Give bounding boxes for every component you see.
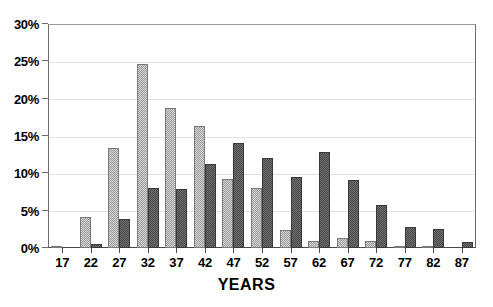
bar <box>280 230 291 248</box>
x-axis-tick-mark <box>148 248 149 253</box>
bar <box>80 217 91 248</box>
bar-group <box>276 24 305 248</box>
bar <box>51 246 62 248</box>
bar <box>319 152 330 248</box>
y-axis-tick-label: 25% <box>0 54 39 69</box>
x-axis-tick-label: 67 <box>341 255 355 270</box>
x-axis-tick-label: 32 <box>141 255 155 270</box>
x-axis-tick-label: 72 <box>369 255 383 270</box>
bar <box>205 164 216 248</box>
bar <box>394 246 405 248</box>
bar <box>165 108 176 248</box>
x-axis-tick-mark <box>176 248 177 253</box>
bar-group <box>390 24 419 248</box>
bar-group <box>48 24 77 248</box>
bar-group <box>162 24 191 248</box>
bar <box>348 180 359 248</box>
x-axis-tick-mark <box>119 248 120 253</box>
bar-group <box>191 24 220 248</box>
bar <box>291 177 302 248</box>
x-axis-tick-mark <box>348 248 349 253</box>
x-axis-tick-label: 87 <box>455 255 469 270</box>
bar-group <box>362 24 391 248</box>
bar-group <box>248 24 277 248</box>
x-axis-tick-label: 37 <box>169 255 183 270</box>
bar <box>376 205 387 248</box>
bar <box>194 126 205 248</box>
x-axis-tick-label: 17 <box>55 255 69 270</box>
bar <box>176 189 187 248</box>
y-axis-tick-label: 30% <box>0 17 39 32</box>
y-axis-tick-label: 0% <box>0 241 39 256</box>
bar <box>233 143 244 248</box>
x-axis-tick-label: 82 <box>426 255 440 270</box>
bar <box>365 241 376 248</box>
bar <box>262 158 273 248</box>
bar <box>251 188 262 248</box>
bar <box>108 148 119 248</box>
x-axis-tick-mark <box>433 248 434 253</box>
bar <box>148 188 159 248</box>
x-axis-tick-label: 42 <box>198 255 212 270</box>
bar-group <box>305 24 334 248</box>
x-axis-tick-label: 77 <box>398 255 412 270</box>
bar <box>91 244 102 248</box>
x-axis-tick-label: 62 <box>312 255 326 270</box>
x-axis-tick-mark <box>462 248 463 253</box>
bar <box>137 64 148 248</box>
x-axis-title: YEARS <box>0 276 493 294</box>
bar <box>222 179 233 248</box>
bar-group <box>447 24 476 248</box>
x-axis-tick-label: 22 <box>84 255 98 270</box>
y-axis-tick-label: 10% <box>0 166 39 181</box>
bar-group <box>333 24 362 248</box>
bar <box>119 219 130 248</box>
x-axis-tick-label: 52 <box>255 255 269 270</box>
bar-group <box>134 24 163 248</box>
y-axis-tick-label: 15% <box>0 129 39 144</box>
bar <box>433 229 444 248</box>
bar-group <box>419 24 448 248</box>
bar-group <box>105 24 134 248</box>
x-axis-tick-mark <box>262 248 263 253</box>
x-axis-tick-mark <box>62 248 63 253</box>
y-axis-tick-label: 5% <box>0 203 39 218</box>
x-axis-tick-label: 57 <box>284 255 298 270</box>
x-axis-tick-mark <box>233 248 234 253</box>
x-axis-tick-label: 27 <box>112 255 126 270</box>
x-axis-tick-mark <box>405 248 406 253</box>
y-axis-tick-label: 20% <box>0 91 39 106</box>
x-axis-tick-label: 47 <box>226 255 240 270</box>
x-axis-tick-mark <box>91 248 92 253</box>
x-axis-tick-mark <box>205 248 206 253</box>
bar <box>422 246 433 248</box>
x-axis-tick-mark <box>319 248 320 253</box>
bar <box>462 242 473 248</box>
bar-group <box>77 24 106 248</box>
x-axis-tick-mark <box>376 248 377 253</box>
bar <box>308 241 319 248</box>
bar-group <box>219 24 248 248</box>
bars-layer <box>48 24 476 248</box>
bar <box>405 227 416 248</box>
x-axis-tick-mark <box>291 248 292 253</box>
bar <box>337 238 348 248</box>
bar-chart: 0%5%10%15%20%25%30% 17222732374247525762… <box>0 0 493 307</box>
